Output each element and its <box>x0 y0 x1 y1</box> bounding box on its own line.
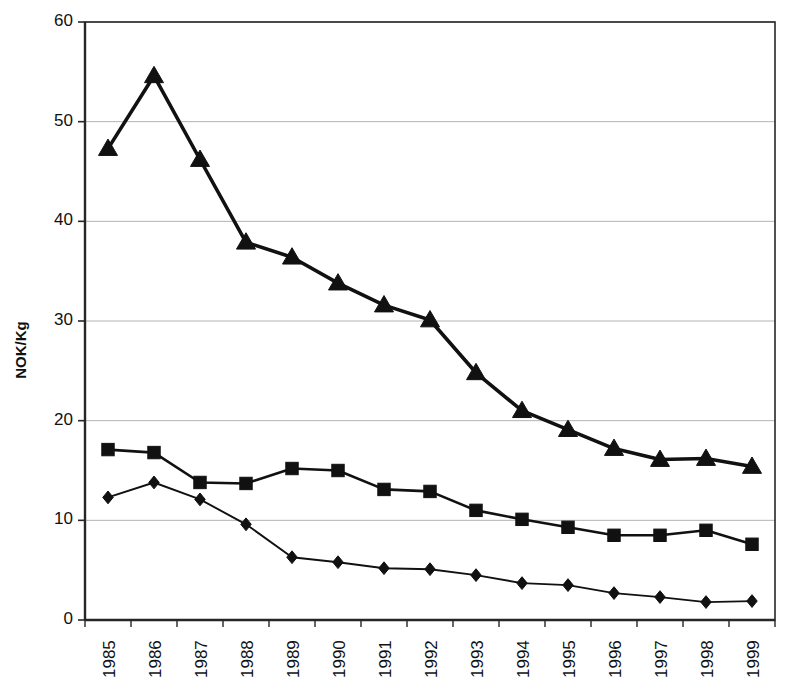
data-point-square <box>332 464 344 476</box>
x-tick-label: 1985 <box>100 640 120 678</box>
data-point-square <box>516 513 528 525</box>
x-tick-label: 1986 <box>146 640 166 678</box>
line-chart-plot <box>0 0 791 695</box>
data-point-square <box>378 483 390 495</box>
x-tick-label: 1999 <box>744 640 764 678</box>
x-tick-label: 1998 <box>698 640 718 678</box>
data-point-square <box>286 462 298 474</box>
x-tick-label: 1990 <box>330 640 350 678</box>
y-tick-label: 40 <box>27 210 73 230</box>
data-point-square <box>102 443 114 455</box>
data-point-square <box>700 524 712 536</box>
chart-container: NOK/Kg 0102030405060 1985198619871988198… <box>0 0 791 695</box>
x-tick-label: 1987 <box>192 640 212 678</box>
y-tick-label: 60 <box>27 11 73 31</box>
data-point-square <box>240 477 252 489</box>
data-point-square <box>470 504 482 516</box>
data-point-square <box>746 538 758 550</box>
y-tick-label: 0 <box>27 609 73 629</box>
y-tick-label: 30 <box>27 310 73 330</box>
y-tick-label: 50 <box>27 111 73 131</box>
x-tick-label: 1991 <box>376 640 396 678</box>
x-tick-label: 1994 <box>514 640 534 678</box>
y-tick-label: 10 <box>27 509 73 529</box>
data-point-square <box>608 529 620 541</box>
x-tick-label: 1997 <box>652 640 672 678</box>
data-point-square <box>654 529 666 541</box>
data-point-square <box>562 521 574 533</box>
y-tick-label: 20 <box>27 410 73 430</box>
x-tick-label: 1992 <box>422 640 442 678</box>
data-point-square <box>424 485 436 497</box>
data-point-square <box>148 446 160 458</box>
x-tick-label: 1996 <box>606 640 626 678</box>
x-tick-label: 1989 <box>284 640 304 678</box>
data-point-square <box>194 476 206 488</box>
x-tick-label: 1995 <box>560 640 580 678</box>
x-tick-label: 1988 <box>238 640 258 678</box>
x-tick-label: 1993 <box>468 640 488 678</box>
